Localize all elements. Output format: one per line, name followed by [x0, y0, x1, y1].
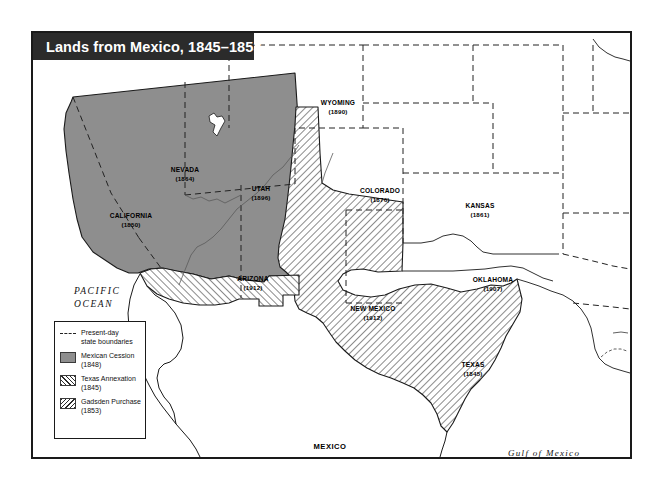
map-title-banner: Lands from Mexico, 1845–1853: [33, 33, 254, 60]
country-label-mexico: MEXICO: [314, 442, 347, 451]
map-figure: CALIFORNIA (1850) NEVADA (1864) UTAH (18…: [0, 0, 663, 489]
legend-label: Gadsden Purchase (1853): [81, 397, 141, 415]
water-label-pacific-ocean: PACIFIC OCEAN: [74, 285, 120, 311]
region-mexican-cession: [64, 73, 299, 282]
backward-hatch-swatch-icon: [60, 398, 76, 409]
map-legend: Present-day state boundaries Mexican Ces…: [54, 321, 146, 439]
legend-item-state-boundaries: Present-day state boundaries: [60, 328, 145, 346]
forward-hatch-swatch-icon: [60, 375, 76, 386]
page-title: Lands from Mexico, 1845–1853: [33, 39, 262, 55]
legend-label: Present-day state boundaries: [81, 328, 133, 346]
water-label-gulf-of-mexico: Gulf of Mexico: [508, 448, 580, 458]
solid-gray-swatch-icon: [60, 352, 76, 363]
legend-item-mexican-cession: Mexican Cession (1848): [60, 351, 145, 369]
legend-item-gadsden-purchase: Gadsden Purchase (1853): [60, 397, 145, 415]
dashed-line-swatch-icon: [60, 329, 76, 338]
legend-label: Texas Annexation (1845): [81, 374, 136, 392]
legend-label: Mexican Cession (1848): [81, 351, 134, 369]
legend-item-texas-annexation: Texas Annexation (1845): [60, 374, 145, 392]
